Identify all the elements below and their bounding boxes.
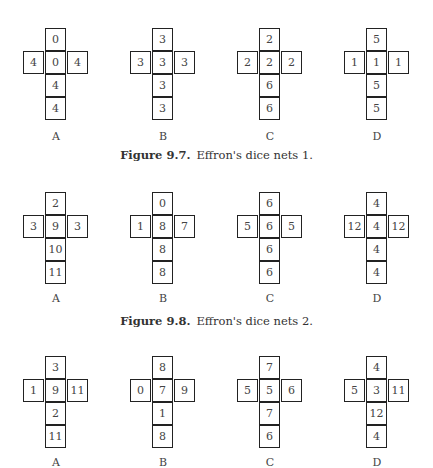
die-face-center: 5 (259, 379, 280, 402)
die-face-top: 2 (45, 192, 66, 215)
die-face-bottom: 6 (259, 261, 280, 284)
die-face-left: 5 (237, 215, 258, 238)
net-label: C (237, 456, 303, 468)
caption-text: Effron's dice nets 1. (196, 148, 312, 162)
die-face-right: 7 (174, 215, 195, 238)
die-face-right: 2 (281, 51, 302, 74)
die-face-below: 2 (45, 402, 66, 425)
die-face-left: 2 (237, 51, 258, 74)
die-face-below: 7 (259, 402, 280, 425)
die-face-center: 9 (45, 215, 66, 238)
die-face-bottom: 4 (366, 425, 387, 448)
dice-net-d: 511155 (344, 28, 410, 140)
die-face-right: 5 (281, 215, 302, 238)
die-face-bottom: 11 (45, 261, 66, 284)
die-face-bottom: 8 (152, 261, 173, 284)
dice-net-b: 333333 (130, 28, 196, 140)
die-face-right: 6 (281, 379, 302, 402)
net-label: A (23, 456, 89, 468)
die-face-bottom: 6 (259, 97, 280, 120)
die-face-right: 9 (174, 379, 195, 402)
die-face-bottom: 5 (366, 97, 387, 120)
die-face-bottom: 8 (152, 425, 173, 448)
die-face-right: 1 (388, 51, 409, 74)
die-face-center: 3 (366, 379, 387, 402)
die-face-left: 3 (23, 215, 44, 238)
die-face-center: 0 (45, 51, 66, 74)
net-label: B (130, 456, 196, 468)
die-face-below: 4 (366, 238, 387, 261)
die-face-below: 12 (366, 402, 387, 425)
net-label: D (344, 130, 410, 143)
die-face-bottom: 3 (152, 97, 173, 120)
net-label: C (237, 130, 303, 143)
net-label: A (23, 292, 89, 305)
die-face-below: 8 (152, 238, 173, 261)
die-face-right: 3 (67, 215, 88, 238)
die-face-left: 12 (344, 215, 365, 238)
die-face-below: 5 (366, 74, 387, 97)
die-face-bottom: 6 (259, 425, 280, 448)
die-face-left: 4 (23, 51, 44, 74)
figure-number: Figure 9.7. (120, 148, 190, 162)
dice-net-a: 23931011 (23, 192, 89, 304)
die-face-below: 6 (259, 238, 280, 261)
net-label: D (344, 292, 410, 305)
die-face-left: 5 (344, 379, 365, 402)
die-face-left: 0 (130, 379, 151, 402)
die-face-top: 7 (259, 356, 280, 379)
dice-net-c: 656566 (237, 192, 303, 304)
die-face-left: 5 (237, 379, 258, 402)
die-face-center: 8 (152, 215, 173, 238)
die-face-top: 4 (366, 192, 387, 215)
die-face-left: 3 (130, 51, 151, 74)
dice-net-d: 45311124 (344, 356, 410, 468)
dice-net-a: 31911211 (23, 356, 89, 468)
die-face-right: 4 (67, 51, 88, 74)
dice-net-b: 807918 (130, 356, 196, 468)
die-face-right: 11 (67, 379, 88, 402)
dice-net-d: 41241244 (344, 192, 410, 304)
die-face-top: 4 (366, 356, 387, 379)
die-face-center: 4 (366, 215, 387, 238)
die-face-top: 8 (152, 356, 173, 379)
die-face-center: 3 (152, 51, 173, 74)
die-face-right: 11 (388, 379, 409, 402)
die-face-bottom: 4 (45, 97, 66, 120)
die-face-below: 1 (152, 402, 173, 425)
die-face-below: 3 (152, 74, 173, 97)
die-face-left: 1 (23, 379, 44, 402)
net-label: A (23, 130, 89, 143)
die-face-top: 3 (152, 28, 173, 51)
net-label: B (130, 292, 196, 305)
caption-text: Effron's dice nets 2. (196, 314, 312, 328)
net-label: C (237, 292, 303, 305)
die-face-center: 2 (259, 51, 280, 74)
die-face-center: 7 (152, 379, 173, 402)
die-face-right: 12 (388, 215, 409, 238)
net-label: D (344, 456, 410, 468)
die-face-top: 5 (366, 28, 387, 51)
die-face-bottom: 11 (45, 425, 66, 448)
dice-net-c: 222266 (237, 28, 303, 140)
dice-net-c: 755676 (237, 356, 303, 468)
die-face-center: 6 (259, 215, 280, 238)
dice-net-b: 018788 (130, 192, 196, 304)
die-face-left: 1 (344, 51, 365, 74)
die-face-right: 3 (174, 51, 195, 74)
die-face-top: 3 (45, 356, 66, 379)
figure-caption: Figure 9.8.Effron's dice nets 2. (0, 314, 433, 328)
die-face-top: 2 (259, 28, 280, 51)
figure-number: Figure 9.8. (120, 314, 190, 328)
dice-net-a: 040444 (23, 28, 89, 140)
die-face-top: 0 (152, 192, 173, 215)
die-face-below: 6 (259, 74, 280, 97)
figure-caption: Figure 9.7.Effron's dice nets 1. (0, 148, 433, 162)
die-face-bottom: 4 (366, 261, 387, 284)
die-face-top: 6 (259, 192, 280, 215)
net-label: B (130, 130, 196, 143)
die-face-center: 1 (366, 51, 387, 74)
die-face-below: 10 (45, 238, 66, 261)
die-face-top: 0 (45, 28, 66, 51)
die-face-left: 1 (130, 215, 151, 238)
